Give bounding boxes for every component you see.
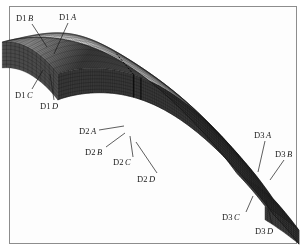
label-prefix: D1	[16, 13, 27, 23]
annotation-label-d1-a: D1A	[59, 13, 76, 22]
label-suffix: C	[124, 157, 131, 167]
annotation-label-d2-b: D2B	[85, 148, 102, 157]
annotation-label-d2-a: D2A	[79, 127, 96, 136]
label-suffix: C	[233, 212, 240, 222]
label-suffix: B	[286, 149, 293, 159]
annotation-label-d3-a: D3A	[254, 131, 271, 140]
label-prefix: D2	[137, 174, 148, 184]
annotation-label-d3-c: D3C	[222, 213, 240, 222]
label-suffix: D	[51, 101, 59, 111]
label-prefix: D2	[79, 126, 90, 136]
label-prefix: D2	[113, 157, 124, 167]
label-suffix: B	[96, 147, 103, 157]
annotation-label-d3-d: D3D	[255, 227, 273, 236]
label-suffix: A	[70, 12, 77, 22]
label-prefix: D3	[275, 149, 286, 159]
label-prefix: D1	[15, 90, 26, 100]
label-suffix: D	[148, 174, 156, 184]
label-suffix: C	[26, 90, 33, 100]
annotation-label-d3-b: D3B	[275, 150, 292, 159]
label-prefix: D3	[254, 130, 265, 140]
annotation-label-d2-d: D2D	[137, 175, 155, 184]
figure-container: D1BD1AD1CD1DD2AD2BD2CD2DD3AD3BD3CD3D	[0, 0, 306, 252]
label-suffix: A	[90, 126, 97, 136]
annotation-label-d2-c: D2C	[113, 158, 131, 167]
label-prefix: D1	[59, 12, 70, 22]
label-prefix: D3	[255, 226, 266, 236]
label-suffix: D	[266, 226, 274, 236]
label-prefix: D1	[40, 101, 51, 111]
label-prefix: D2	[85, 147, 96, 157]
annotation-label-d1-c: D1C	[15, 91, 33, 100]
label-prefix: D3	[222, 212, 233, 222]
annotation-label-d1-b: D1B	[16, 14, 33, 23]
annotation-label-d1-d: D1D	[40, 102, 58, 111]
fem-mesh-render	[0, 0, 306, 252]
label-suffix: A	[265, 130, 272, 140]
label-suffix: B	[27, 13, 34, 23]
